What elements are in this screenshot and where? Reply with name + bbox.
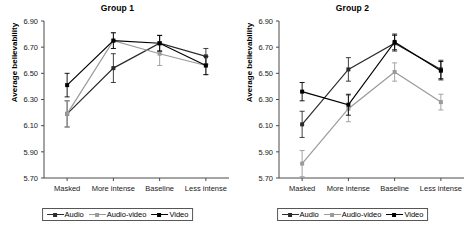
- data-point-marker: [439, 100, 443, 104]
- series-video: [65, 33, 209, 97]
- data-point-marker: [158, 41, 162, 45]
- legend: Audio Audio-video Video: [277, 208, 429, 221]
- x-tick-label: Masked: [289, 184, 315, 193]
- legend: Audio Audio-video Video: [42, 208, 194, 221]
- series-audio: [65, 35, 209, 127]
- y-tick-label: 5.70: [258, 174, 273, 183]
- y-tick-label: 5.90: [23, 148, 38, 157]
- data-point-marker: [111, 66, 115, 70]
- data-point-marker: [393, 70, 397, 74]
- legend-marker-audio-icon: [282, 211, 299, 218]
- data-point-marker: [158, 52, 162, 56]
- plot-area: 5.705.906.106.306.506.706.90MaskedMore i…: [0, 0, 235, 200]
- y-tick-label: 5.70: [23, 174, 38, 183]
- figure-root: Group 1 Average believability 5.705.906.…: [0, 0, 470, 225]
- y-tick-label: 6.10: [258, 121, 273, 130]
- x-tick-label: Baseline: [145, 184, 174, 193]
- data-point-marker: [346, 67, 350, 71]
- legend-marker-video-icon: [386, 211, 403, 218]
- series-audio-video: [65, 33, 209, 127]
- legend-label-audio-video: Audio-video: [342, 210, 382, 219]
- legend-label-video: Video: [169, 210, 188, 219]
- y-tick-label: 6.70: [23, 43, 38, 52]
- data-point-marker: [346, 103, 350, 107]
- series-video: [300, 34, 444, 115]
- legend-marker-audio-video-icon: [324, 211, 341, 218]
- x-tick-label: Less intense: [420, 184, 462, 193]
- x-tick-label: More intense: [92, 184, 135, 193]
- legend-entry-video: Video: [386, 210, 423, 219]
- series-audio: [300, 35, 444, 137]
- x-tick-label: Baseline: [380, 184, 409, 193]
- data-point-marker: [439, 69, 443, 73]
- data-point-marker: [300, 122, 304, 126]
- data-point-marker: [65, 83, 69, 87]
- y-tick-label: 5.90: [258, 148, 273, 157]
- legend-entry-audio: Audio: [47, 210, 84, 219]
- y-tick-label: 6.30: [258, 95, 273, 104]
- data-point-marker: [300, 162, 304, 166]
- data-point-marker: [111, 39, 115, 43]
- legend-label-audio: Audio: [300, 210, 319, 219]
- legend-entry-video: Video: [151, 210, 188, 219]
- y-tick-label: 6.30: [23, 95, 38, 104]
- plot-area: 5.705.906.106.306.506.706.90MaskedMore i…: [235, 0, 470, 200]
- legend-label-video: Video: [404, 210, 423, 219]
- y-tick-label: 6.70: [258, 43, 273, 52]
- data-point-marker: [65, 112, 69, 116]
- legend-label-audio-video: Audio-video: [107, 210, 147, 219]
- legend-entry-audio: Audio: [282, 210, 319, 219]
- chart-panel-group-1: Group 1 Average believability 5.705.906.…: [0, 0, 235, 225]
- y-tick-label: 6.90: [23, 17, 38, 26]
- legend-marker-video-icon: [151, 211, 168, 218]
- x-tick-label: Masked: [54, 184, 80, 193]
- legend-marker-audio-icon: [47, 211, 64, 218]
- legend-entry-audio-video: Audio-video: [89, 210, 147, 219]
- data-point-marker: [393, 40, 397, 44]
- y-tick-label: 6.50: [258, 69, 273, 78]
- series-audio-video: [300, 63, 444, 177]
- y-tick-label: 6.50: [23, 69, 38, 78]
- data-point-marker: [300, 90, 304, 94]
- legend-marker-audio-video-icon: [89, 211, 106, 218]
- chart-panel-group-2: Group 2 Average believability 5.705.906.…: [235, 0, 470, 225]
- x-tick-label: More intense: [327, 184, 370, 193]
- y-tick-label: 6.10: [23, 121, 38, 130]
- data-point-marker: [204, 63, 208, 67]
- x-tick-label: Less intense: [185, 184, 227, 193]
- legend-label-audio: Audio: [65, 210, 84, 219]
- y-tick-label: 6.90: [258, 17, 273, 26]
- legend-entry-audio-video: Audio-video: [324, 210, 382, 219]
